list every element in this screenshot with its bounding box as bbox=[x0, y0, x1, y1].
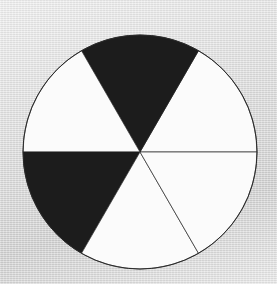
image-canvas bbox=[0, 0, 277, 284]
sector-wheel bbox=[0, 0, 277, 284]
sector-group bbox=[23, 35, 257, 269]
